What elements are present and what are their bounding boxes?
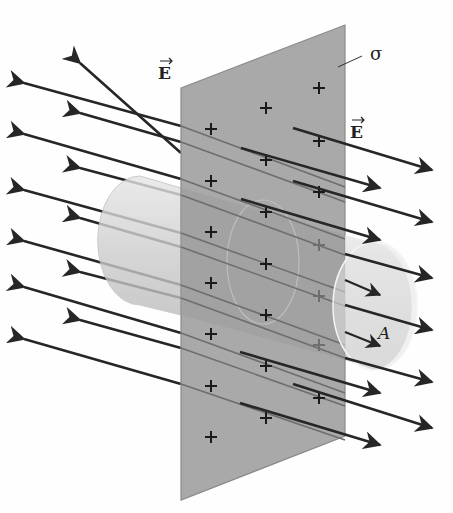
sigma-label: σ — [370, 43, 382, 64]
area-label: A — [376, 323, 390, 343]
field-label-right: E — [350, 122, 363, 142]
gaussian-cylinder-left — [98, 176, 181, 315]
diagram-canvas: σ E E A — [0, 0, 453, 513]
gauss-pillbox-diagram: σ E E A — [0, 0, 453, 513]
field-label-left: E — [158, 63, 171, 83]
